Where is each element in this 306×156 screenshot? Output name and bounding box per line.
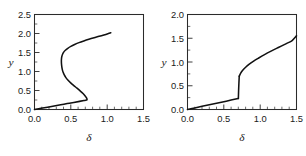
data-curve-left xyxy=(35,33,111,110)
y-axis-ticks-right xyxy=(188,15,193,110)
figure-container: 0.0 0.5 1.0 1.5 2.0 2.5 0.0 0.5 1.0 1.5 … xyxy=(0,0,306,156)
x-ticklabel-left-1: 0.5 xyxy=(64,113,77,124)
plot-frame-right xyxy=(188,15,297,110)
y-ticklabel-left-5: 2.5 xyxy=(18,9,31,20)
x-ticklabel-right-0: 0.0 xyxy=(181,113,194,124)
chart-right-svg: 0.0 0.5 1.0 1.5 2.0 0.0 0.5 1.0 1.5 y δ xyxy=(153,0,306,156)
y-ticklabel-left-2: 1.0 xyxy=(18,66,31,77)
y-ticklabel-right-4: 2.0 xyxy=(171,9,184,20)
x-ticklabel-left-3: 1.5 xyxy=(137,113,150,124)
y-ticklabel-left-3: 1.5 xyxy=(18,47,31,58)
x-ticklabel-right-1: 0.5 xyxy=(217,113,230,124)
x-ticklabel-left-2: 1.0 xyxy=(101,113,114,124)
y-ticklabel-left-4: 2.0 xyxy=(18,28,31,39)
data-curve-right-jump xyxy=(238,76,239,98)
chart-panel-right: 0.0 0.5 1.0 1.5 2.0 0.0 0.5 1.0 1.5 y δ xyxy=(153,0,306,156)
y-axis-label-right: y xyxy=(160,56,167,68)
y-ticklabel-right-3: 1.5 xyxy=(171,33,184,44)
y-ticklabel-right-2: 1.0 xyxy=(171,57,184,68)
data-curve-right-lower xyxy=(188,99,239,110)
x-ticklabel-right-2: 1.0 xyxy=(254,113,267,124)
plot-frame-left xyxy=(35,15,144,110)
x-ticklabel-right-3: 1.5 xyxy=(290,113,303,124)
chart-left-svg: 0.0 0.5 1.0 1.5 2.0 2.5 0.0 0.5 1.0 1.5 … xyxy=(0,0,153,156)
chart-panel-left: 0.0 0.5 1.0 1.5 2.0 2.5 0.0 0.5 1.0 1.5 … xyxy=(0,0,153,156)
x-axis-label-left: δ xyxy=(86,131,92,143)
data-curve-right-upper xyxy=(239,36,296,76)
y-axis-label-left: y xyxy=(7,56,14,68)
x-ticklabel-left-0: 0.0 xyxy=(28,113,41,124)
y-ticklabel-right-1: 0.5 xyxy=(171,80,184,91)
y-ticklabel-left-1: 0.5 xyxy=(18,85,31,96)
x-axis-label-right: δ xyxy=(239,131,245,143)
